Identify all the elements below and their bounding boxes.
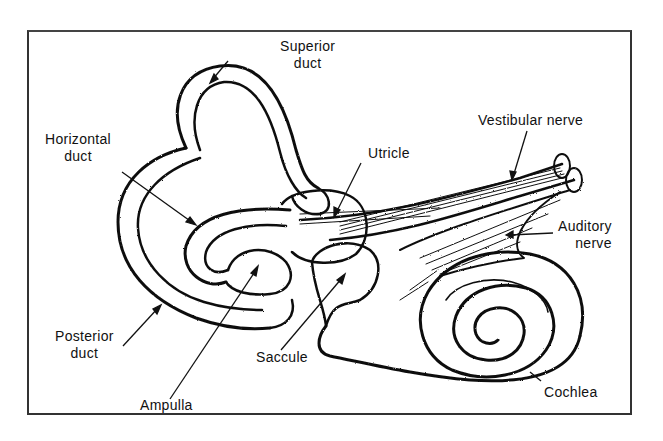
label-horizontal-duct: Horizontal duct xyxy=(45,131,111,165)
label-vestibular-nerve: Vestibular nerve xyxy=(478,112,583,129)
label-superior-duct: Superior duct xyxy=(280,38,335,72)
label-line: duct xyxy=(45,148,111,165)
label-auditory-nerve: Auditory nerve xyxy=(558,218,612,252)
label-line: Auditory xyxy=(558,218,612,235)
label-posterior-duct: Posterior duct xyxy=(55,328,114,362)
posterior-duct-shape xyxy=(118,148,293,329)
label-line: duct xyxy=(55,345,114,362)
label-line: Superior xyxy=(280,38,335,55)
label-ampulla: Ampulla xyxy=(140,397,193,414)
label-line: Utricle xyxy=(368,145,410,162)
horizontal-duct-shape xyxy=(185,209,290,284)
utricle-leader xyxy=(336,163,361,213)
label-line: Saccule xyxy=(256,349,308,366)
cochlear-duct-shape xyxy=(319,326,580,381)
label-line: duct xyxy=(280,55,335,72)
label-line: Ampulla xyxy=(140,397,193,414)
vestibular-nerve-shape xyxy=(300,154,582,240)
saccule-leader xyxy=(281,278,342,350)
label-saccule: Saccule xyxy=(256,349,308,366)
ampulla-shape xyxy=(226,250,291,294)
ampulla-leader xyxy=(170,270,256,399)
saccule-shape xyxy=(312,243,378,326)
cochlea-shape xyxy=(420,252,582,377)
label-utricle: Utricle xyxy=(368,145,410,162)
label-line: Cochlea xyxy=(544,384,597,401)
label-line: Posterior xyxy=(55,328,114,345)
horizontal-duct-leader xyxy=(122,172,193,223)
label-line: Vestibular nerve xyxy=(478,112,583,129)
label-line: nerve xyxy=(558,235,612,252)
vestibular-nerve-leader xyxy=(513,131,527,177)
label-line: Horizontal xyxy=(45,131,111,148)
posterior-duct-leader xyxy=(123,308,158,346)
label-cochlea: Cochlea xyxy=(544,384,597,401)
